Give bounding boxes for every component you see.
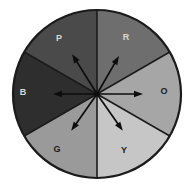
spinner-center-hub: [94, 91, 99, 96]
sector-label-yellow: Y: [121, 145, 127, 155]
sector-label-orange: O: [160, 86, 167, 96]
sector-label-green: G: [53, 144, 60, 154]
sector-label-purple: P: [56, 33, 62, 43]
sector-label-blue: B: [20, 87, 27, 97]
spinner-svg: PROYGB: [0, 0, 194, 188]
sector-label-red: R: [123, 32, 130, 42]
color-wheel-spinner-figure: PROYGB: [0, 0, 194, 188]
